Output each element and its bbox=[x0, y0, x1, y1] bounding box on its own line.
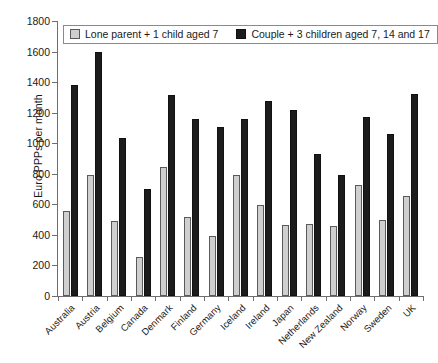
bar bbox=[306, 224, 313, 296]
bar bbox=[217, 127, 224, 296]
legend-entry-couple: Couple + 3 children aged 7, 14 and 17 bbox=[236, 29, 429, 40]
x-axis-tick bbox=[228, 296, 229, 301]
x-axis-tick bbox=[277, 296, 278, 301]
bar-group bbox=[82, 21, 106, 296]
bar bbox=[111, 221, 118, 296]
legend-swatch-couple-icon bbox=[236, 29, 246, 39]
bar-group bbox=[58, 21, 82, 296]
x-axis-tick bbox=[180, 296, 181, 301]
bar bbox=[184, 217, 191, 296]
bar-group bbox=[277, 21, 301, 296]
bar bbox=[282, 225, 289, 296]
y-axis-tick-label: 0 bbox=[6, 290, 50, 302]
bar-group bbox=[204, 21, 228, 296]
bar-group bbox=[374, 21, 398, 296]
bar bbox=[290, 110, 297, 296]
chart-legend: Lone parent + 1 child aged 7 Couple + 3 … bbox=[63, 25, 438, 44]
bar-group bbox=[253, 21, 277, 296]
x-axis-tick bbox=[301, 296, 302, 301]
bar bbox=[160, 167, 167, 296]
bar bbox=[71, 85, 78, 296]
bar bbox=[403, 196, 410, 296]
bar bbox=[338, 175, 345, 296]
x-axis-labels: AustraliaAustriaBelgiumCanadaDenmarkFinl… bbox=[57, 302, 422, 362]
bar-group bbox=[350, 21, 374, 296]
y-axis-tick-label: 1800 bbox=[6, 15, 50, 27]
y-axis-tick-label: 800 bbox=[6, 168, 50, 180]
x-axis-tick bbox=[82, 296, 83, 301]
plot-area: 020040060080010001200140016001800 bbox=[57, 21, 423, 297]
bar-group bbox=[107, 21, 131, 296]
bar bbox=[411, 94, 418, 296]
x-axis-tick bbox=[58, 296, 59, 301]
bar bbox=[63, 211, 70, 296]
x-axis-tick bbox=[350, 296, 351, 301]
x-axis-tick bbox=[155, 296, 156, 301]
y-axis-tick-label: 1600 bbox=[6, 46, 50, 58]
y-axis-tick-label: 1200 bbox=[6, 107, 50, 119]
x-axis-tick bbox=[423, 296, 424, 301]
y-axis-tick-label: 1000 bbox=[6, 137, 50, 149]
y-axis-tick-label: 1400 bbox=[6, 76, 50, 88]
x-axis-tick bbox=[204, 296, 205, 301]
bar-group bbox=[399, 21, 423, 296]
x-axis-tick bbox=[399, 296, 400, 301]
legend-label-couple: Couple + 3 children aged 7, 14 and 17 bbox=[251, 29, 429, 40]
bar bbox=[379, 220, 386, 296]
y-axis-tick-label: 200 bbox=[6, 259, 50, 271]
bar-group bbox=[131, 21, 155, 296]
bar bbox=[257, 205, 264, 296]
bar-group bbox=[180, 21, 204, 296]
bar-group bbox=[155, 21, 179, 296]
x-axis-tick bbox=[107, 296, 108, 301]
bar bbox=[314, 154, 321, 296]
bar bbox=[265, 101, 272, 296]
bar bbox=[136, 257, 143, 296]
bar bbox=[119, 138, 126, 296]
x-axis-tick bbox=[374, 296, 375, 301]
bar-group bbox=[326, 21, 350, 296]
bar bbox=[241, 119, 248, 296]
x-axis-tick bbox=[326, 296, 327, 301]
x-axis-tick bbox=[131, 296, 132, 301]
y-axis-tick-label: 400 bbox=[6, 229, 50, 241]
legend-entry-lone-parent: Lone parent + 1 child aged 7 bbox=[70, 29, 218, 40]
bar bbox=[192, 119, 199, 296]
bar-group bbox=[301, 21, 325, 296]
bar bbox=[95, 52, 102, 296]
bar-group bbox=[228, 21, 252, 296]
bar bbox=[355, 185, 362, 296]
bar bbox=[330, 226, 337, 296]
bar bbox=[87, 175, 94, 296]
bar-groups bbox=[58, 21, 423, 296]
bar bbox=[168, 95, 175, 296]
bar bbox=[387, 134, 394, 296]
x-axis-tick bbox=[253, 296, 254, 301]
legend-label-lone-parent: Lone parent + 1 child aged 7 bbox=[85, 29, 218, 40]
bar bbox=[144, 189, 151, 296]
legend-swatch-lone-parent-icon bbox=[70, 29, 80, 39]
bar bbox=[363, 117, 370, 296]
y-axis-tick-label: 600 bbox=[6, 198, 50, 210]
bar bbox=[233, 175, 240, 296]
bar bbox=[209, 236, 216, 296]
